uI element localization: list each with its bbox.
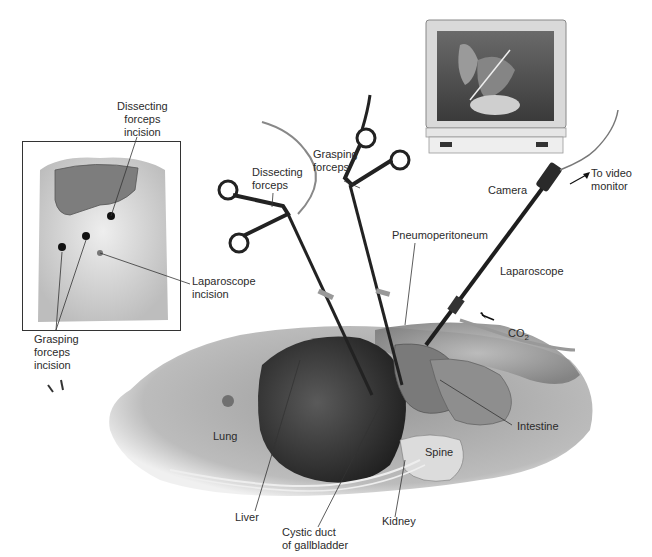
label-laparoscope: Laparoscope — [500, 265, 564, 278]
camera-body — [535, 162, 563, 193]
video-cable — [560, 110, 618, 170]
label-grasping-forceps: Grasping forceps — [313, 148, 358, 174]
inset-frame — [22, 141, 181, 331]
label-kidney: Kidney — [382, 515, 416, 528]
label-co2: CO2 — [508, 327, 529, 344]
label-camera: Camera — [488, 184, 527, 197]
label-spine: Spine — [425, 446, 453, 459]
co2-subscript: 2 — [525, 333, 529, 342]
label-to-video-monitor: To video monitor — [591, 167, 632, 193]
laparoscopy-diagram: Dissecting forceps incision Laparoscope … — [0, 0, 652, 557]
label-pneumoperitoneum: Pneumoperitoneum — [392, 229, 488, 242]
label-liver: Liver — [235, 511, 259, 524]
video-monitor — [426, 20, 566, 153]
label-dissecting-forceps-incision: Dissecting forceps incision — [117, 100, 168, 139]
co2-text: CO — [508, 327, 525, 339]
label-lung: Lung — [213, 430, 237, 443]
label-grasping-forceps-incision: Grasping forceps incision — [34, 333, 79, 372]
label-intestine: Intestine — [517, 420, 559, 433]
label-laparoscope-incision: Laparoscope incision — [192, 275, 256, 301]
body-cross-section — [48, 322, 593, 496]
liver-shape — [258, 337, 406, 483]
label-dissecting-forceps: Dissecting forceps — [252, 166, 303, 192]
label-cystic-duct: Cystic duct of gallbladder — [282, 526, 348, 552]
